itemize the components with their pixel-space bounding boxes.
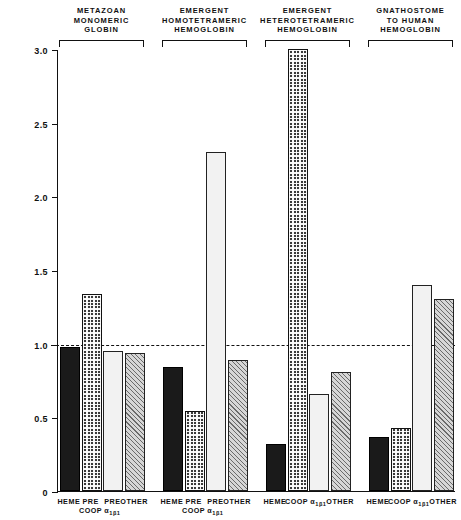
y-axis-tick: 3.0	[52, 50, 58, 51]
group-title: GNATHOSTOME TO HUMAN HEMOGLOBIN	[356, 6, 461, 35]
bar	[185, 411, 205, 491]
bar	[391, 428, 411, 491]
group-bracket	[368, 40, 453, 47]
bar	[163, 367, 183, 491]
bar	[103, 351, 123, 491]
bar	[60, 347, 80, 491]
y-axis-tick-label: 0	[43, 488, 48, 498]
y-axis-tick-label: 1.0	[34, 341, 48, 351]
group-title: EMERGENT HETEROTETRAMERIC HEMOGLOBIN	[253, 6, 362, 35]
y-axis-tick: 0.5	[52, 418, 58, 419]
plot-area: 00.51.01.52.02.53.0	[57, 50, 455, 492]
bar	[309, 394, 329, 491]
y-axis-tick-label: 2.0	[34, 193, 48, 203]
bar	[228, 360, 248, 491]
y-axis-tick-label: 1.5	[34, 267, 48, 277]
bar-chart-figure: METAZOAN MONOMERIC GLOBINEMERGENT HOMOTE…	[0, 0, 461, 520]
group-bracket	[59, 40, 144, 47]
reference-line	[51, 345, 455, 346]
group-title: METAZOAN MONOMERIC GLOBIN	[47, 6, 156, 35]
bar	[266, 444, 286, 491]
bar	[82, 294, 102, 491]
group-bracket	[162, 40, 247, 47]
y-axis-tick: 1.5	[52, 271, 58, 272]
y-axis-tick: 2.0	[52, 197, 58, 198]
y-axis-tick-label: 3.0	[34, 46, 48, 56]
bar	[288, 49, 308, 491]
bar	[331, 372, 351, 491]
bar	[125, 353, 145, 491]
bar	[412, 285, 432, 491]
y-axis-tick: 2.5	[52, 124, 58, 125]
y-axis-tick-label: 0.5	[34, 414, 48, 424]
bar	[434, 299, 454, 491]
y-axis-tick-label: 2.5	[34, 120, 48, 130]
bar	[369, 437, 389, 492]
y-axis-tick: 0	[52, 492, 58, 493]
bar	[206, 152, 226, 491]
x-axis-label: OTHER	[421, 498, 461, 507]
group-bracket	[265, 40, 350, 47]
group-title: EMERGENT HOMOTETRAMERIC HEMOGLOBIN	[150, 6, 259, 35]
